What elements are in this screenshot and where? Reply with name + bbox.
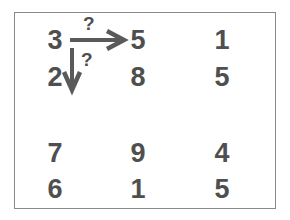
down-arrow-icon	[64, 48, 80, 90]
vertical-arrow-question-mark: ?	[81, 50, 93, 69]
arrows-layer	[0, 0, 290, 220]
right-arrow-icon	[70, 31, 124, 49]
horizontal-arrow-question-mark: ?	[83, 14, 95, 33]
